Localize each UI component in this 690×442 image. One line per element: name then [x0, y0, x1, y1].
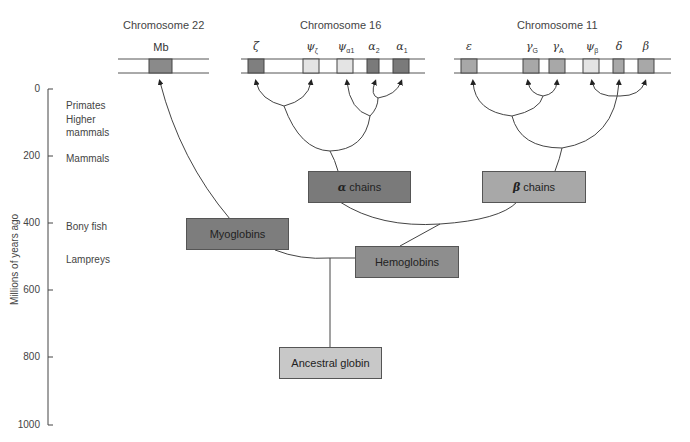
node-alpha-chains: αchains — [308, 171, 411, 203]
node-ancestral-globin: Ancestral globin — [279, 347, 382, 379]
chromosome-11-title: Chromosome 11 — [517, 19, 598, 31]
gene-label-gamma-g: γG — [520, 40, 544, 54]
gene-label-psi-zeta: ψζ — [300, 40, 324, 54]
node-beta-chains: βchains — [482, 171, 586, 203]
node-myoglobins: Myoglobins — [186, 218, 289, 250]
gene-label-psi-alpha1: ψα1 — [334, 40, 358, 54]
y-axis-label: Millions of years ago — [9, 214, 20, 305]
era-mammals: Mammals — [66, 153, 109, 165]
gene-label-zeta: ζ — [244, 40, 268, 53]
chromosome-16-title: Chromosome 16 — [300, 19, 381, 31]
tick-1000: 1000 — [4, 419, 40, 430]
chromosome-22-title: Chromosome 22 — [123, 19, 204, 31]
tick-200: 200 — [4, 150, 40, 161]
gene-label-beta: β — [634, 40, 658, 53]
gene-label-delta: δ — [607, 40, 631, 53]
era-mammals-cont: mammals — [66, 127, 109, 139]
era-higher: Higher — [66, 114, 95, 126]
gene-label-mb: Mb — [149, 41, 173, 53]
gene-label-gamma-a: γA — [546, 40, 570, 54]
era-primates: Primates — [66, 100, 105, 112]
gene-label-psi-beta: ψβ — [580, 40, 604, 54]
era-lampreys: Lampreys — [66, 254, 110, 266]
gene-label-alpha1: α1 — [390, 40, 414, 54]
tick-800: 800 — [4, 351, 40, 362]
gene-label-alpha2: α2 — [362, 40, 386, 54]
tick-0: 0 — [4, 83, 40, 94]
node-hemoglobins: Hemoglobins — [355, 246, 459, 278]
gene-label-epsilon: ε — [457, 40, 481, 53]
era-bony-fish: Bony fish — [66, 221, 107, 233]
